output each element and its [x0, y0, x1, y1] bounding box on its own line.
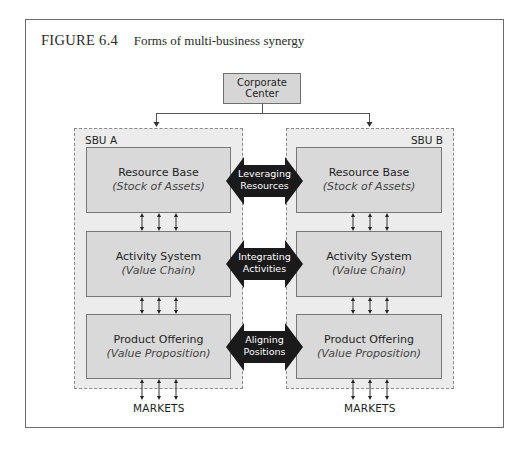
sbu-b-product-offering: Product Offering (Value Proposition) [296, 314, 442, 379]
box-title: Resource Base [118, 166, 199, 180]
box-subtitle: (Value Chain) [332, 264, 406, 278]
sbu-b-label: SBU B [411, 134, 443, 146]
synergy-line1: Integrating [226, 251, 303, 263]
synergy-line2: Positions [226, 346, 303, 358]
corporate-center-line1: Corporate [224, 77, 300, 88]
sbu-a-activity-system: Activity System (Value Chain) [86, 231, 231, 297]
corporate-center-line2: Center [224, 88, 300, 99]
markets-label-a: MARKETS [133, 402, 185, 414]
synergy-aligning-positions: Aligning Positions [226, 323, 303, 371]
synergy-line1: Leveraging [226, 168, 303, 180]
bidirectional-arrows-b-markets-icon [346, 379, 396, 400]
figure-caption: Forms of multi-business synergy [134, 33, 305, 48]
sbu-b-activity-system: Activity System (Value Chain) [296, 231, 442, 297]
synergy-line2: Resources [226, 180, 303, 192]
box-title: Activity System [116, 250, 202, 264]
synergy-line2: Activities [226, 263, 303, 275]
bidirectional-arrows-b-1-icon [346, 213, 396, 231]
synergy-line1: Aligning [226, 334, 303, 346]
synergy-integrating-activities: Integrating Activities [226, 240, 303, 288]
box-subtitle: (Value Chain) [122, 264, 196, 278]
synergy-leveraging-resources: Leveraging Resources [226, 157, 303, 205]
box-subtitle: (Stock of Assets) [112, 180, 204, 194]
bidirectional-arrows-a-1-icon [135, 213, 185, 231]
corporate-center-box: Corporate Center [223, 73, 301, 104]
box-title: Resource Base [329, 166, 410, 180]
bidirectional-arrows-b-2-icon [346, 297, 396, 314]
box-title: Product Offering [114, 333, 204, 347]
sbu-b-resource-base: Resource Base (Stock of Assets) [296, 147, 442, 213]
box-title: Product Offering [324, 333, 414, 347]
arrow-down-sbu-a-icon [152, 113, 161, 128]
connector-horizontal [156, 113, 369, 114]
figure-number: FIGURE 6.4 [41, 32, 118, 48]
box-subtitle: (Value Proposition) [317, 347, 421, 361]
box-title: Activity System [326, 250, 412, 264]
bidirectional-arrows-a-2-icon [135, 297, 185, 314]
box-subtitle: (Stock of Assets) [323, 180, 415, 194]
box-subtitle: (Value Proposition) [107, 347, 211, 361]
figure-title: FIGURE 6.4 Forms of multi-business syner… [41, 32, 304, 49]
sbu-a-resource-base: Resource Base (Stock of Assets) [86, 147, 231, 213]
markets-label-b: MARKETS [344, 402, 396, 414]
bidirectional-arrows-a-markets-icon [135, 379, 185, 400]
sbu-a-label: SBU A [85, 134, 117, 146]
connector-vertical [262, 104, 263, 113]
arrow-down-sbu-b-icon [365, 113, 374, 128]
sbu-a-product-offering: Product Offering (Value Proposition) [86, 314, 231, 379]
